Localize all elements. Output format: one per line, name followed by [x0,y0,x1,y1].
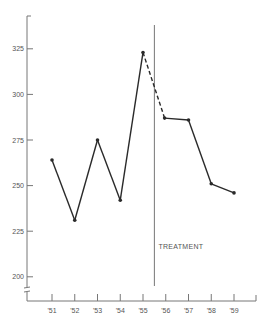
line-chart: 200225250275300325 '51'52'53'54'55'56'57… [0,0,263,319]
x-tick-label: '59 [229,307,238,314]
line-segment [165,118,189,120]
line-segment [52,160,75,220]
dashed-segment [143,52,165,118]
axes [24,16,256,301]
data-point [118,198,122,202]
x-tick-label: '54 [116,307,125,314]
line-segment [98,140,121,200]
data-point [163,116,167,120]
y-tick-label: 325 [12,45,24,52]
data-point [50,158,54,162]
x-tick-label: '55 [138,307,147,314]
x-tick-label: '51 [47,307,56,314]
data-point [187,118,191,122]
line-segment [120,52,143,200]
line-segment [211,184,234,193]
data-point [141,51,145,55]
x-tick-label: '56 [161,307,170,314]
treatment-label: TREATMENT [158,243,203,250]
y-tick-label: 225 [12,228,24,235]
y-tick-label: 250 [12,182,24,189]
y-axis-ticks: 200225250275300325 [12,45,33,280]
data-point [96,138,100,142]
x-tick-label: '53 [93,307,102,314]
line-segment [189,120,212,184]
data-series [50,51,236,222]
data-point [209,182,213,186]
x-tick-label: '58 [207,307,216,314]
y-tick-label: 200 [12,273,24,280]
data-point [73,218,77,222]
y-tick-label: 300 [12,91,24,98]
x-tick-label: '52 [70,307,79,314]
data-point [232,191,236,195]
x-axis-ticks: '51'52'53'54'55'56'57'58'59 [47,294,238,314]
line-segment [75,140,98,220]
y-tick-label: 275 [12,137,24,144]
x-tick-label: '57 [184,307,193,314]
